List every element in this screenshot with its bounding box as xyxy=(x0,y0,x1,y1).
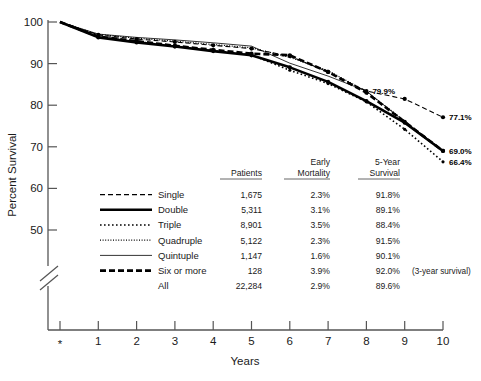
data-point xyxy=(364,91,368,95)
endpoint-label-77.1: 77.1% xyxy=(449,113,472,122)
data-point xyxy=(173,44,177,48)
data-point xyxy=(288,69,291,72)
x-tick-label-5: 5 xyxy=(248,335,254,347)
table-cell-patients: 5,311 xyxy=(241,205,262,215)
table-header-early-line2: Mortality xyxy=(298,168,331,178)
y-axis-title: Percent Survival xyxy=(6,133,18,217)
data-point xyxy=(173,40,177,44)
table-cell-patients: 22,284 xyxy=(236,281,263,291)
data-point xyxy=(403,97,407,101)
x-tick-label-star: * xyxy=(58,338,63,350)
table-cell-patients: 5,122 xyxy=(240,236,262,246)
x-tick-label-6: 6 xyxy=(287,335,293,347)
data-point xyxy=(326,70,330,74)
table-cell-five-year-survival: 91.8% xyxy=(376,190,401,200)
y-tick-label-80: 80 xyxy=(30,99,43,111)
table-cell-five-year-survival: 91.5% xyxy=(376,236,401,246)
table-header-patients: Patients xyxy=(231,168,262,178)
table-header-survival-line1: 5-Year xyxy=(375,157,400,167)
legend-label-six-or-more: Six or more xyxy=(158,265,207,276)
legend-label-quadruple: Quadruple xyxy=(158,235,202,246)
legend-label-all: All xyxy=(158,280,169,291)
table-cell-note: (3-year survival) xyxy=(412,267,471,276)
survival-chart-figure: 1009080706050 *12345678910 79.9%77.1%69.… xyxy=(0,0,481,381)
table-cell-early-mortality: 3.1% xyxy=(310,205,330,215)
x-tick-label-4: 4 xyxy=(210,335,217,347)
data-point xyxy=(365,100,368,103)
legend-label-quintuple: Quintuple xyxy=(158,250,199,261)
chart-canvas: 1009080706050 *12345678910 79.9%77.1%69.… xyxy=(0,0,481,381)
x-tick-label-9: 9 xyxy=(401,335,407,347)
table-cell-five-year-survival: 89.1% xyxy=(376,205,401,215)
data-point xyxy=(288,53,292,57)
x-tick-label-8: 8 xyxy=(363,335,369,347)
y-tick-label-50: 50 xyxy=(30,224,43,236)
table-cell-patients: 1,147 xyxy=(240,251,262,261)
table-cell-early-mortality: 1.6% xyxy=(310,251,330,261)
table-cell-patients: 128 xyxy=(248,266,263,276)
y-tick-label-60: 60 xyxy=(30,182,43,194)
x-tick-label-2: 2 xyxy=(133,335,139,347)
data-point xyxy=(441,160,444,163)
data-point xyxy=(211,48,215,52)
table-cell-early-mortality: 2.9% xyxy=(310,281,330,291)
y-tick-label-100: 100 xyxy=(24,16,43,28)
table-cell-five-year-survival: 92.0% xyxy=(376,266,401,276)
table-cell-five-year-survival: 88.4% xyxy=(376,220,401,230)
data-point xyxy=(403,120,407,124)
endpoint-label-69.0: 69.0% xyxy=(449,147,472,156)
data-point xyxy=(96,34,100,38)
x-tick-label-3: 3 xyxy=(172,335,178,347)
data-point xyxy=(441,115,445,119)
table-cell-early-mortality: 3.9% xyxy=(310,266,330,276)
data-point xyxy=(441,149,445,153)
y-tick-label-70: 70 xyxy=(30,141,43,153)
table-cell-five-year-survival: 89.6% xyxy=(376,281,401,291)
table-cell-patients: 1,675 xyxy=(240,190,262,200)
legend-label-single: Single xyxy=(158,189,184,200)
endpoint-label-79.9: 79.9% xyxy=(372,87,395,96)
data-point xyxy=(327,82,330,85)
x-tick-label-10: 10 xyxy=(437,335,450,347)
legend-label-triple: Triple xyxy=(158,219,181,230)
data-point xyxy=(135,39,139,43)
y-tick-label-90: 90 xyxy=(30,58,43,70)
data-point xyxy=(403,128,406,131)
x-tick-label-7: 7 xyxy=(325,335,331,347)
table-cell-early-mortality: 2.3% xyxy=(310,236,330,246)
table-header-early-line1: Early xyxy=(310,157,330,167)
table-cell-five-year-survival: 90.1% xyxy=(376,251,401,261)
table-header-survival-line2: Survival xyxy=(369,168,400,178)
table-cell-early-mortality: 3.5% xyxy=(310,220,330,230)
legend-label-double: Double xyxy=(158,204,188,215)
table-cell-patients: 8,901 xyxy=(240,220,262,230)
data-point xyxy=(249,52,253,56)
x-tick-label-1: 1 xyxy=(95,335,101,347)
endpoint-label-66.4: 66.4% xyxy=(449,158,472,167)
x-axis-title: Years xyxy=(231,355,260,367)
table-cell-early-mortality: 2.3% xyxy=(310,190,330,200)
